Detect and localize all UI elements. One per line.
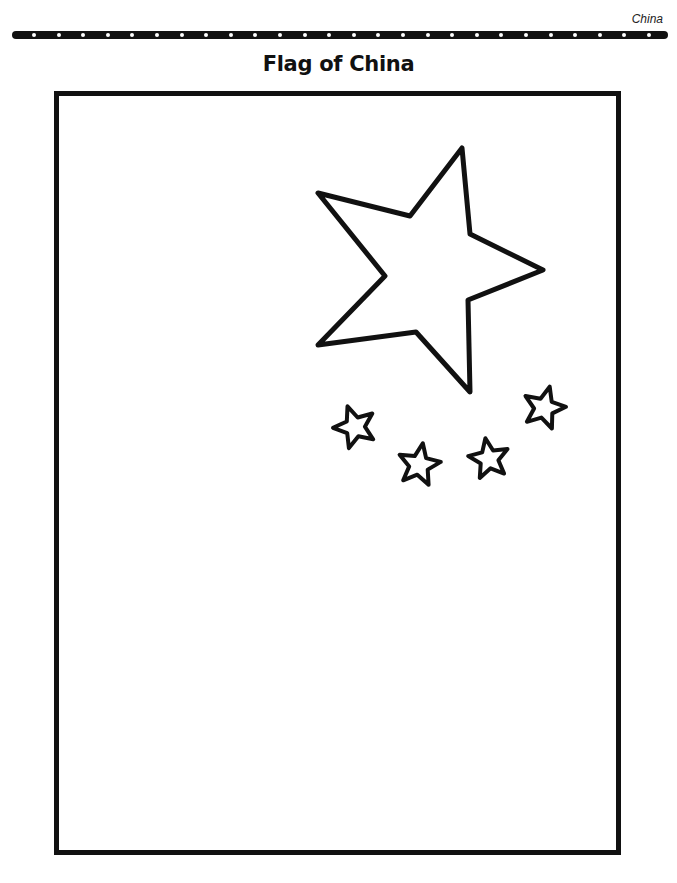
small-star-3-icon	[468, 438, 507, 478]
flag-stars	[0, 0, 677, 883]
large-star-icon	[318, 148, 543, 392]
small-star-1-icon	[333, 406, 373, 448]
small-star-2-icon	[400, 443, 441, 485]
small-star-4-icon	[526, 387, 567, 429]
